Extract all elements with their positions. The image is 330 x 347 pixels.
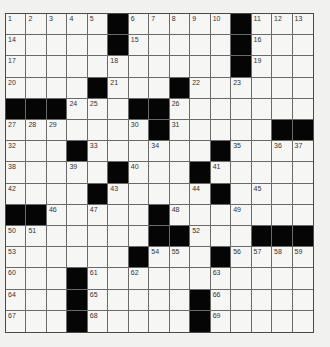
grid-cell[interactable]: [108, 99, 128, 120]
grid-cell[interactable]: [272, 205, 292, 226]
grid-cell[interactable]: [26, 247, 46, 268]
grid-cell[interactable]: 12: [272, 14, 292, 35]
grid-cell[interactable]: [47, 247, 67, 268]
grid-cell[interactable]: 27: [6, 120, 26, 141]
grid-cell[interactable]: [252, 99, 272, 120]
grid-cell[interactable]: [293, 311, 313, 332]
grid-cell[interactable]: 64: [6, 290, 26, 311]
grid-cell[interactable]: [47, 35, 67, 56]
grid-cell[interactable]: [252, 205, 272, 226]
grid-cell[interactable]: [231, 99, 251, 120]
grid-cell[interactable]: [129, 311, 149, 332]
grid-cell[interactable]: [149, 162, 169, 183]
grid-cell[interactable]: [293, 290, 313, 311]
grid-cell[interactable]: [190, 268, 210, 289]
grid-cell[interactable]: [47, 141, 67, 162]
grid-cell[interactable]: [190, 120, 210, 141]
grid-cell[interactable]: [108, 120, 128, 141]
grid-cell[interactable]: 3: [47, 14, 67, 35]
grid-cell[interactable]: [108, 268, 128, 289]
grid-cell[interactable]: [108, 141, 128, 162]
grid-cell[interactable]: 13: [293, 14, 313, 35]
grid-cell[interactable]: [211, 56, 231, 77]
grid-cell[interactable]: 62: [129, 268, 149, 289]
grid-cell[interactable]: [190, 99, 210, 120]
grid-cell[interactable]: [149, 78, 169, 99]
grid-cell[interactable]: 17: [6, 56, 26, 77]
grid-cell[interactable]: 25: [88, 99, 108, 120]
grid-cell[interactable]: 8: [170, 14, 190, 35]
grid-cell[interactable]: [211, 226, 231, 247]
grid-cell[interactable]: [211, 205, 231, 226]
grid-cell[interactable]: [26, 162, 46, 183]
grid-cell[interactable]: [47, 290, 67, 311]
grid-cell[interactable]: 42: [6, 184, 26, 205]
grid-cell[interactable]: [252, 290, 272, 311]
grid-cell[interactable]: [88, 35, 108, 56]
grid-cell[interactable]: [108, 226, 128, 247]
grid-cell[interactable]: [272, 268, 292, 289]
grid-cell[interactable]: [108, 247, 128, 268]
grid-cell[interactable]: [47, 184, 67, 205]
grid-cell[interactable]: [149, 311, 169, 332]
grid-cell[interactable]: [170, 311, 190, 332]
grid-cell[interactable]: [47, 311, 67, 332]
grid-cell[interactable]: 32: [6, 141, 26, 162]
grid-cell[interactable]: [149, 35, 169, 56]
grid-cell[interactable]: [293, 184, 313, 205]
grid-cell[interactable]: [88, 120, 108, 141]
grid-cell[interactable]: [190, 205, 210, 226]
grid-cell[interactable]: [272, 78, 292, 99]
grid-cell[interactable]: 6: [129, 14, 149, 35]
grid-cell[interactable]: [272, 99, 292, 120]
grid-cell[interactable]: [108, 290, 128, 311]
grid-cell[interactable]: [108, 205, 128, 226]
grid-cell[interactable]: [129, 226, 149, 247]
grid-cell[interactable]: [88, 162, 108, 183]
grid-cell[interactable]: [67, 120, 87, 141]
grid-cell[interactable]: [293, 56, 313, 77]
grid-cell[interactable]: [26, 268, 46, 289]
grid-cell[interactable]: 48: [170, 205, 190, 226]
grid-cell[interactable]: [252, 162, 272, 183]
grid-cell[interactable]: [170, 184, 190, 205]
grid-cell[interactable]: 67: [6, 311, 26, 332]
grid-cell[interactable]: 28: [26, 120, 46, 141]
grid-cell[interactable]: [129, 56, 149, 77]
grid-cell[interactable]: 46: [47, 205, 67, 226]
grid-cell[interactable]: 26: [170, 99, 190, 120]
grid-cell[interactable]: [67, 35, 87, 56]
grid-cell[interactable]: 9: [190, 14, 210, 35]
grid-cell[interactable]: 63: [211, 268, 231, 289]
grid-cell[interactable]: [231, 184, 251, 205]
grid-cell[interactable]: [211, 78, 231, 99]
grid-cell[interactable]: [67, 247, 87, 268]
grid-cell[interactable]: 49: [231, 205, 251, 226]
grid-cell[interactable]: 61: [88, 268, 108, 289]
grid-cell[interactable]: [88, 226, 108, 247]
grid-cell[interactable]: [293, 268, 313, 289]
grid-cell[interactable]: 54: [149, 247, 169, 268]
grid-cell[interactable]: 20: [6, 78, 26, 99]
grid-cell[interactable]: 34: [149, 141, 169, 162]
grid-cell[interactable]: 18: [108, 56, 128, 77]
grid-cell[interactable]: [149, 184, 169, 205]
grid-cell[interactable]: 57: [252, 247, 272, 268]
grid-cell[interactable]: 5: [88, 14, 108, 35]
grid-cell[interactable]: [272, 184, 292, 205]
grid-cell[interactable]: [26, 184, 46, 205]
grid-cell[interactable]: 21: [108, 78, 128, 99]
grid-cell[interactable]: [190, 141, 210, 162]
grid-cell[interactable]: [67, 56, 87, 77]
grid-cell[interactable]: [272, 56, 292, 77]
grid-cell[interactable]: 19: [252, 56, 272, 77]
grid-cell[interactable]: [252, 311, 272, 332]
grid-cell[interactable]: [108, 311, 128, 332]
grid-cell[interactable]: 68: [88, 311, 108, 332]
grid-cell[interactable]: 22: [190, 78, 210, 99]
grid-cell[interactable]: 11: [252, 14, 272, 35]
grid-cell[interactable]: 33: [88, 141, 108, 162]
grid-cell[interactable]: [211, 99, 231, 120]
grid-cell[interactable]: 30: [129, 120, 149, 141]
grid-cell[interactable]: [293, 35, 313, 56]
